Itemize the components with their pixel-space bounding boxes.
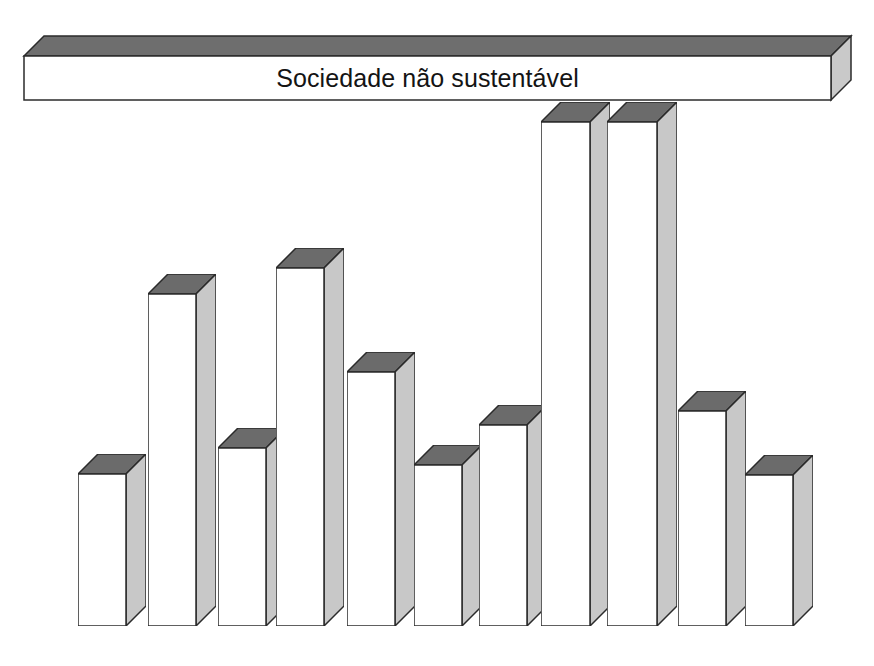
- bar-label-box: Estética: [78, 474, 126, 626]
- bar-side-face: [126, 454, 146, 626]
- bar-label-box: Seguridade individual: [607, 122, 657, 626]
- bar-oportunidade-educacional: Oportunidadeeducacional: [347, 352, 415, 626]
- bar-side-face: [196, 274, 216, 626]
- bar-estetica: Estética: [78, 454, 146, 626]
- bar-label-box: Oportunidaderecreacional: [678, 411, 726, 626]
- bar-espiritualismo: Espiritualismo: [745, 455, 813, 626]
- bar-liberdade-individual-e-variedade: Liberdade individual e variedade: [541, 102, 610, 626]
- bar-side-face: [395, 352, 415, 626]
- bar-seguridade-ambiental: Seguridadeambiental: [479, 405, 547, 626]
- sustainability-bar-chart-figure: Sociedade não sustentável EstéticaSeguri…: [0, 0, 874, 666]
- bar-side-face: [657, 102, 677, 626]
- bar-label-box: Liberdade individual e variedade: [541, 122, 590, 626]
- bar-label-box: Espiritualismo: [745, 475, 793, 626]
- bar-side-face: [324, 248, 344, 626]
- bar-side-face: [793, 455, 813, 626]
- bar-label-box: Oportunidade econômica: [276, 268, 324, 626]
- bar-seguridade-individual: Seguridade individual: [607, 102, 677, 626]
- bar-oportunidade-economica: Oportunidade econômica: [276, 248, 344, 626]
- page-bleed-artifact: [0, 652, 874, 666]
- title-banner-text-wrap: Sociedade não sustentável: [24, 56, 831, 100]
- bar-oportunidade-recreacional: Oportunidaderecreacional: [678, 391, 746, 626]
- bar-side-face: [726, 391, 746, 626]
- bar-label-box: Oportunidadecultural: [218, 448, 266, 626]
- title-banner-top-face: [24, 36, 851, 56]
- bar-seguridade-emocional: Seguridadeemocional: [414, 445, 482, 626]
- bar-label-box: Oportunidadeeducacional: [347, 372, 395, 626]
- page-title: Sociedade não sustentável: [276, 64, 579, 93]
- bar-label-box: Seguridadeemocional: [414, 465, 462, 626]
- bar-label-box: Seguridadeambiental: [479, 425, 527, 626]
- bar-label-box: Seguridade coletiva: [148, 294, 196, 626]
- bar-seguridade-coletiva: Seguridade coletiva: [148, 274, 216, 626]
